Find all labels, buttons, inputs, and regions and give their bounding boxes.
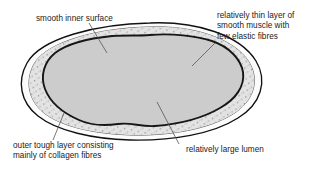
label-thin-muscle-layer-line-1: relatively thin layer of (217, 11, 294, 21)
lumen-shape (43, 34, 243, 126)
label-smooth-inner-surface: smooth inner surface (36, 14, 113, 24)
label-thin-muscle-layer-line-2: smooth muscle with (217, 21, 294, 31)
label-large-lumen: relatively large lumen (186, 145, 264, 155)
label-thin-muscle-layer: relatively thin layer of smooth muscle w… (217, 11, 294, 42)
label-smooth-inner-surface-line-1: smooth inner surface (36, 14, 113, 24)
label-outer-tough-layer: outer tough layer consisting mainly of c… (13, 141, 114, 162)
label-large-lumen-line-1: relatively large lumen (186, 145, 264, 155)
label-thin-muscle-layer-line-3: few elastic fibres (217, 32, 294, 42)
diagram-canvas: smooth inner surface relatively thin lay… (0, 0, 324, 178)
label-outer-tough-layer-line-1: outer tough layer consisting (13, 141, 114, 151)
label-outer-tough-layer-line-2: mainly of collagen fibres (13, 151, 114, 161)
